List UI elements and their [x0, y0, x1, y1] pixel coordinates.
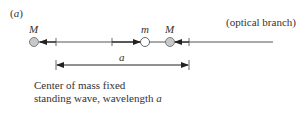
light-mass: [141, 38, 150, 47]
optical-branch-diagram: (a) (optical branch) M m M a Center of m…: [0, 0, 305, 115]
mass-label-left-heavy: M: [28, 23, 39, 35]
caption-line-2-text: standing wave, wavelength: [34, 92, 156, 104]
mass-label-right-heavy: M: [164, 23, 175, 35]
caption-line-2-var: a: [156, 92, 162, 104]
mass-label-light: m: [141, 23, 149, 35]
caption-line-2: standing wave, wavelength a: [34, 92, 162, 104]
caption-line-1: Center of mass fixed: [34, 79, 126, 91]
heavy-mass-left: [30, 38, 39, 47]
heavy-mass-right: [166, 38, 175, 47]
panel-label: (a): [10, 7, 23, 20]
branch-label: (optical branch): [226, 16, 296, 29]
dimension-label: a: [119, 51, 125, 63]
